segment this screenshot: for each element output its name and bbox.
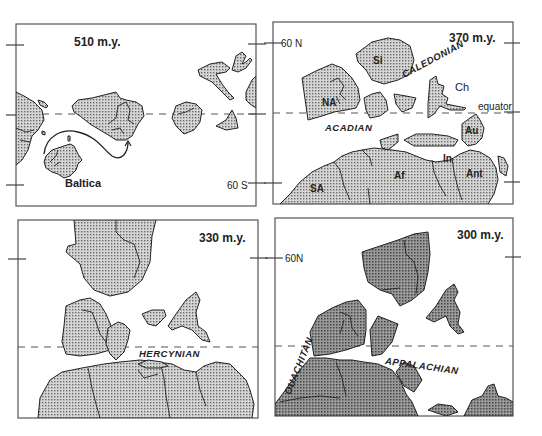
continent-label-au: Au — [465, 125, 478, 136]
landmass — [66, 220, 156, 296]
landmass — [464, 384, 513, 416]
north-america-landmass — [302, 64, 360, 120]
continent-label-si: Si — [373, 55, 382, 66]
age-label-300: 300 m.y. — [457, 230, 503, 241]
gondwana-landmass — [38, 360, 254, 418]
orogeny-label-acadian: ACADIAN — [325, 122, 372, 133]
landmass — [404, 134, 458, 146]
island — [42, 131, 45, 135]
landmass — [142, 310, 166, 326]
continent-label-ant: Ant — [466, 168, 483, 179]
continent-label-na: NA — [322, 97, 336, 108]
continent-label-ch: Ch — [455, 82, 469, 93]
latitude-label-60n: 60 N — [281, 38, 302, 49]
age-label-330: 330 m.y. — [199, 233, 245, 244]
equator-label: equator — [478, 101, 512, 112]
panel-510my — [6, 24, 266, 206]
island — [498, 156, 508, 176]
latitude-label-60n: 60N — [285, 253, 303, 264]
landmass — [428, 404, 458, 416]
age-label-510: 510 m.y. — [74, 37, 120, 48]
baltica-landmass — [364, 92, 388, 118]
landmass — [380, 134, 398, 150]
landmass — [198, 62, 234, 100]
continent-label-in: In — [443, 153, 452, 164]
island — [68, 136, 70, 141]
baltica-landmass — [44, 144, 82, 178]
panel-300my — [265, 218, 521, 416]
latitude-label-60s: 60 S — [227, 180, 248, 191]
panel-330my — [8, 220, 268, 418]
landmass — [168, 292, 210, 342]
continent-label-af: Af — [394, 170, 405, 181]
landmass — [426, 284, 464, 334]
north-america-landmass — [310, 300, 366, 356]
landmass — [232, 52, 252, 72]
landmass — [246, 76, 256, 108]
landmass — [172, 102, 202, 134]
paleogeography-figure — [0, 0, 542, 436]
baltica-landmass — [370, 316, 398, 356]
continent-label-sa: SA — [310, 183, 324, 194]
landmass — [362, 232, 430, 306]
landmass — [216, 110, 238, 130]
baltica-landmass — [106, 322, 130, 360]
baltica-label: Baltica — [65, 178, 101, 189]
orogeny-label-hercynian: HERCYNIAN — [139, 348, 200, 359]
landmass — [394, 94, 416, 112]
